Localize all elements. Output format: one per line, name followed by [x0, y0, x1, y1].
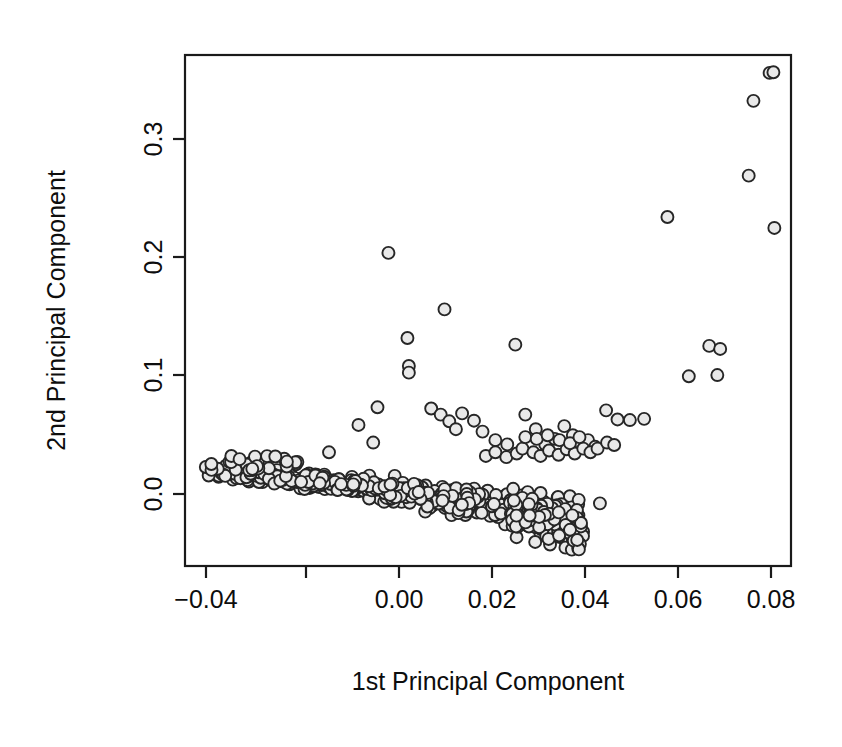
data-point — [269, 451, 281, 463]
data-point — [371, 401, 383, 413]
data-point — [624, 414, 636, 426]
data-point — [573, 431, 585, 443]
data-point — [352, 419, 364, 431]
data-point — [638, 413, 650, 425]
data-point — [382, 247, 394, 259]
data-point — [767, 66, 779, 78]
x-tick-label: 0.04 — [561, 585, 610, 613]
data-point — [608, 439, 620, 451]
data-point — [519, 431, 531, 443]
data-point — [477, 426, 489, 438]
data-point — [714, 343, 726, 355]
data-point — [246, 463, 258, 475]
data-point — [205, 458, 217, 470]
data-point — [335, 478, 347, 490]
x-axis-title: 1st Principal Component — [352, 667, 624, 695]
data-point — [594, 497, 606, 509]
x-tick-label: 0.02 — [468, 585, 517, 613]
data-point — [747, 95, 759, 107]
data-point — [367, 437, 379, 449]
data-point — [456, 407, 468, 419]
y-tick-label: 0.1 — [139, 358, 167, 393]
data-point — [413, 486, 425, 498]
y-tick-label: 0.3 — [139, 122, 167, 157]
data-point — [542, 429, 554, 441]
data-point — [401, 332, 413, 344]
data-point — [508, 495, 520, 507]
data-point — [529, 536, 541, 548]
data-point — [600, 404, 612, 416]
data-point — [439, 303, 451, 315]
data-point — [450, 423, 462, 435]
data-point — [661, 211, 673, 223]
data-point — [612, 413, 624, 425]
data-point — [711, 369, 723, 381]
data-point — [507, 483, 519, 495]
data-point — [436, 495, 448, 507]
data-point — [768, 222, 780, 234]
data-point — [509, 339, 521, 351]
data-point — [510, 510, 522, 522]
data-point — [519, 409, 531, 421]
data-point — [743, 170, 755, 182]
data-point — [314, 477, 326, 489]
data-point — [489, 434, 501, 446]
data-point — [347, 478, 359, 490]
data-point — [295, 476, 307, 488]
data-point — [385, 478, 397, 490]
data-point — [553, 506, 565, 518]
data-point — [501, 438, 513, 450]
data-point — [234, 453, 246, 465]
y-tick-label: 0.2 — [139, 240, 167, 275]
x-tick-label: −0.04 — [174, 585, 237, 613]
y-axis-title: 2nd Principal Component — [42, 170, 70, 451]
data-point — [683, 370, 695, 382]
scatter-plot-figure: −0.040.000.020.040.060.08 0.00.10.20.3 1… — [0, 0, 842, 747]
y-tick-label: 0.0 — [139, 477, 167, 512]
data-point — [323, 446, 335, 458]
data-point — [468, 415, 480, 427]
x-tick-label: 0.06 — [654, 585, 703, 613]
x-tick-label: 0.00 — [375, 585, 424, 613]
data-point — [571, 534, 583, 546]
data-point — [281, 456, 293, 468]
x-tick-label: 0.08 — [747, 585, 796, 613]
data-point — [403, 367, 415, 379]
data-point — [524, 510, 536, 522]
chart-canvas: −0.040.000.020.040.060.08 0.00.10.20.3 1… — [0, 0, 842, 747]
data-point — [456, 499, 468, 511]
data-point — [566, 509, 578, 521]
data-point — [523, 498, 535, 510]
data-point — [488, 498, 500, 510]
